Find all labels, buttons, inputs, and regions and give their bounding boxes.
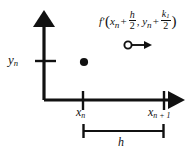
formula-fraction-1-denominator: 2 [129,20,136,31]
x-axis-label-xn-plus-1-subscript: n + 1 [153,111,170,120]
derivative-formula: f′(xn+h2, yn+k12) [99,9,177,32]
y-axis-label-subscript: n [14,58,18,68]
x-axis-label-xn: xn [76,106,85,120]
formula-plus-1: + [119,15,127,27]
formula-fraction-2-numerator: k1 [161,9,171,20]
y-axis-label: yn [8,53,18,67]
x-axis-label-xn-plus-1: xn + 1 [148,106,171,120]
formula-fraction-2-numerator-subscript: 1 [166,12,169,19]
formula-fraction-1-numerator: h [129,10,136,20]
formula-plus-2: + [152,15,160,27]
formula-close-paren: ) [172,13,177,29]
formula-arg2-subscript: n [147,20,152,30]
slope-marker-circle-icon [124,41,131,48]
interval-bracket-label: h [118,136,124,148]
slope-marker-arrowhead-icon [144,41,152,49]
formula-comma: , [137,15,140,27]
formula-fraction-k1-over-2: k12 [161,9,171,32]
formula-fraction-2-denominator: 2 [161,20,171,31]
y-axis-arrowhead-icon [33,10,55,27]
formula-fraction-h-over-2: h2 [129,10,136,32]
data-point-dot [80,58,88,66]
x-axis-label-xn-subscript: n [81,111,85,120]
x-axis-arrowhead-icon [168,91,185,109]
